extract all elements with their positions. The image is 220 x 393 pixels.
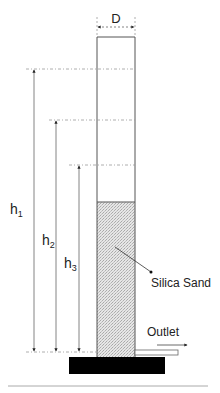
column-sand xyxy=(97,202,135,357)
sand-leader-dot xyxy=(150,271,153,274)
base-block xyxy=(69,357,165,374)
outlet-tube xyxy=(135,350,178,355)
silica-sand-label: Silica Sand xyxy=(151,276,211,290)
h2-label: h2 xyxy=(42,232,55,250)
outlet-label: Outlet xyxy=(147,325,180,339)
h1-label: h1 xyxy=(10,201,23,219)
column-diagram: D h1 h2 h3 Silica Sand Outlet xyxy=(0,0,220,393)
h3-label: h3 xyxy=(64,255,77,273)
diameter-label: D xyxy=(111,11,120,26)
